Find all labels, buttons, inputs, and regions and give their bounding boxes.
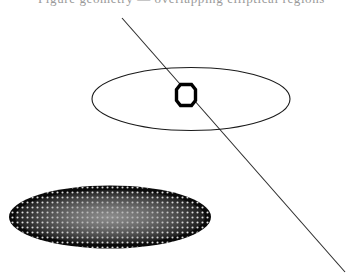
- filled-ellipse-group: [8, 184, 212, 250]
- figure-canvas: Figure geometry — overlapping elliptical…: [0, 0, 363, 275]
- halftone-dot-pattern: [8, 184, 212, 250]
- octagon-marker: [177, 85, 196, 106]
- geometry-figure: [0, 0, 363, 275]
